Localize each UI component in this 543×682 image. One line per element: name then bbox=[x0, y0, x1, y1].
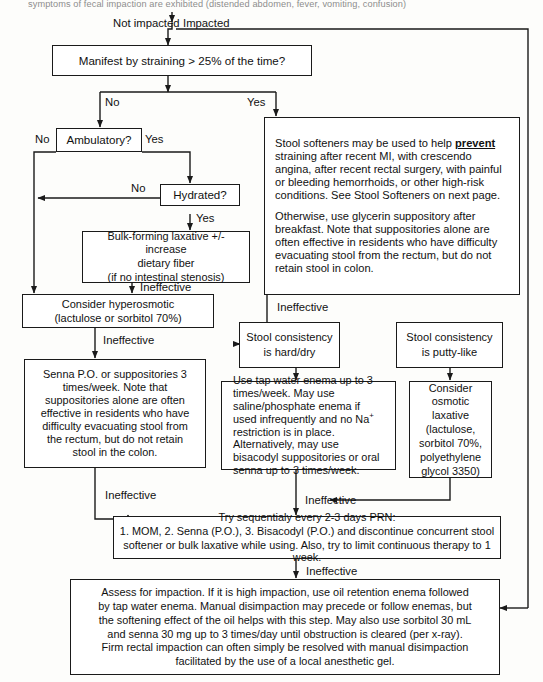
impaction-line-4: and senna 30 mg up to 3 times/day until … bbox=[103, 628, 466, 641]
page-header-text: symptoms of fecal impaction are exhibite… bbox=[28, 0, 528, 9]
node-consider-hyperosmotic[interactable]: Consider hyperosmotic (lactulose or sorb… bbox=[22, 294, 214, 328]
edge-label-ineffective-5: Ineffective bbox=[305, 494, 356, 506]
node-hydrated-label: Hydrated? bbox=[169, 188, 231, 202]
bulk-line-2: dietary fiber bbox=[134, 257, 199, 270]
edge-label-hydrated-no: No bbox=[131, 182, 145, 194]
node-hydrated-decision[interactable]: Hydrated? bbox=[160, 184, 240, 206]
sequential-line-1: Try sequentialy every 2-3 days PRN: bbox=[215, 511, 400, 524]
osmotic-line-5: sorbitol 70%, bbox=[415, 437, 486, 450]
node-tap-water-enema[interactable]: Use tap water enema up to 3 times/week. … bbox=[221, 381, 396, 470]
node-assess-for-impaction[interactable]: Assess for impaction. If it is high impa… bbox=[70, 579, 500, 675]
node-ambulatory-label: Ambulatory? bbox=[62, 133, 135, 147]
osmotic-line-2: osmotic bbox=[428, 395, 474, 408]
osmotic-line-1: Consider bbox=[425, 382, 477, 395]
node-bulk-forming-laxative[interactable]: Bulk-forming laxative +/- increase dieta… bbox=[82, 231, 250, 283]
edge-label-not-impacted: Not impacted bbox=[113, 17, 180, 29]
hard-line-1: Stool consistency bbox=[242, 331, 336, 344]
osmotic-line-3: laxative bbox=[428, 409, 473, 422]
osmotic-line-4: (lactulose, bbox=[422, 423, 480, 436]
bulk-line-1: Bulk-forming laxative +/- increase bbox=[83, 230, 249, 256]
edge-label-no-1: No bbox=[105, 96, 119, 108]
edge-label-ineffective-4: Ineffective bbox=[277, 301, 328, 313]
node-manifest-label: Manifest by straining > 25% of the time? bbox=[75, 54, 290, 68]
node-manifest-by-straining[interactable]: Manifest by straining > 25% of the time? bbox=[52, 45, 312, 76]
osmotic-line-7: glycol 3350) bbox=[417, 465, 484, 478]
node-try-sequentially[interactable]: Try sequentialy every 2-3 days PRN: 1. M… bbox=[113, 516, 501, 559]
prevent-emphasis: prevent bbox=[455, 137, 495, 149]
edge-label-ineffective-6: Ineffective bbox=[306, 565, 357, 577]
putty-line-2: is putty-like bbox=[418, 346, 482, 359]
putty-line-1: Stool consistency bbox=[402, 331, 496, 344]
edge-label-ineffective-3: Ineffective bbox=[105, 489, 156, 501]
hyper-line-2: (lactulose or sorbitol 70%) bbox=[50, 312, 185, 325]
node-stool-softeners[interactable]: Stool softeners may be used to help prev… bbox=[264, 117, 520, 295]
node-stool-consistency-putty[interactable]: Stool consistency is putty-like bbox=[396, 322, 503, 368]
node-consider-osmotic-laxative[interactable]: Consider osmotic laxative (lactulose, so… bbox=[409, 381, 492, 478]
edge-label-ambulatory-no: No bbox=[35, 133, 49, 145]
hard-line-2: is hard/dry bbox=[260, 346, 320, 359]
impaction-line-2: by tap water enema. Manual disimpaction … bbox=[94, 600, 476, 613]
edge-label-hydrated-yes: Yes bbox=[196, 212, 214, 224]
tap-water-text: Use tap water enema up to 3 times/week. … bbox=[229, 374, 388, 477]
impaction-line-6: facilitated by the use of a local anesth… bbox=[171, 655, 398, 668]
softeners-paragraph-2: Otherwise, use glycerin suppository afte… bbox=[271, 210, 513, 275]
bulk-line-3: (if no intestinal stenosis) bbox=[104, 271, 229, 284]
impaction-line-5: Firm rectal impaction can often simply b… bbox=[98, 641, 473, 654]
edge-label-ineffective-2: Ineffective bbox=[103, 334, 154, 346]
node-ambulatory-decision[interactable]: Ambulatory? bbox=[56, 128, 142, 152]
node-senna-po[interactable]: Senna P.O. or suppositories 3 times/week… bbox=[24, 359, 206, 468]
edge-label-impacted: Impacted bbox=[183, 17, 229, 29]
impaction-line-3: the softening effect of the oil helps wi… bbox=[95, 614, 476, 627]
senna-text: Senna P.O. or suppositories 3 times/week… bbox=[31, 368, 199, 458]
sodium-superscript: + bbox=[369, 411, 374, 420]
impaction-line-1: Assess for impaction. If it is high impa… bbox=[97, 586, 472, 599]
edge-label-ambulatory-yes: Yes bbox=[145, 133, 163, 145]
osmotic-line-6: polyethylene bbox=[416, 451, 485, 464]
sequential-line-2: 1. MOM, 2. Senna (P.O.), 3. Bisacodyl (P… bbox=[116, 525, 498, 538]
hyper-line-1: Consider hyperosmotic bbox=[58, 298, 179, 311]
softeners-paragraph-1: Stool softeners may be used to help prev… bbox=[271, 137, 513, 202]
edge-label-yes-1: Yes bbox=[247, 96, 265, 108]
sequential-line-3: softener or bulk laxative while using. A… bbox=[114, 539, 500, 565]
node-stool-consistency-hard[interactable]: Stool consistency is hard/dry bbox=[239, 322, 340, 368]
